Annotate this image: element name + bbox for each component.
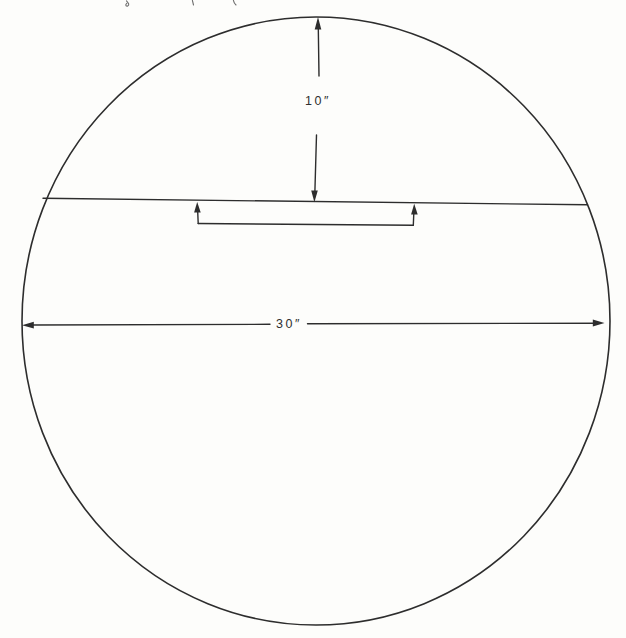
arrow-down-icon bbox=[311, 191, 318, 203]
cropped-letter-descender bbox=[233, 0, 236, 5]
arrow-up-icon bbox=[315, 17, 322, 30]
chord-line bbox=[43, 198, 588, 205]
dimensioned-circle-diagram: 10″ 30″ bbox=[0, 0, 626, 638]
arrow-up-icon bbox=[411, 204, 418, 215]
diameter-dimension-label: 30″ bbox=[276, 317, 302, 331]
dimension-line-right bbox=[308, 323, 600, 324]
cropped-letter-descender bbox=[192, 0, 193, 5]
dimension-line-upper bbox=[318, 28, 319, 76]
arrow-right-icon bbox=[593, 320, 605, 327]
arrow-left-icon bbox=[22, 322, 34, 329]
vertical-dimension-10in: 10″ bbox=[305, 17, 331, 202]
bracket-base-line bbox=[198, 224, 413, 226]
bracket-left-riser bbox=[198, 212, 199, 224]
diagram-canvas: 10″ 30″ bbox=[0, 0, 626, 638]
dimension-line-lower bbox=[315, 135, 317, 192]
arrow-up-icon bbox=[194, 202, 201, 213]
diameter-dimension-30in: 30″ bbox=[22, 317, 605, 331]
cropped-caption-descenders bbox=[126, 0, 236, 6]
cropped-letter-descender bbox=[126, 1, 129, 6]
vertical-dimension-label: 10″ bbox=[305, 94, 331, 108]
circle-outline bbox=[22, 17, 610, 625]
chord-span-bracket bbox=[194, 202, 418, 225]
dimension-line-left bbox=[33, 324, 270, 325]
bracket-right-riser bbox=[413, 214, 414, 226]
